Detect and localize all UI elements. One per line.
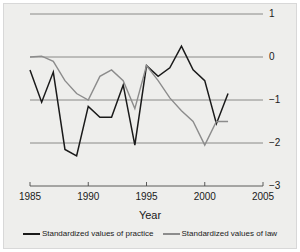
x-tick-label: 2000 — [185, 191, 225, 202]
x-tick-label: 1995 — [127, 191, 167, 202]
x-tick-label: 2005 — [243, 191, 283, 202]
legend-swatch-law-icon — [163, 233, 180, 235]
legend-item-practice: Standardized values of practice — [23, 229, 154, 238]
x-axis-title: Year — [0, 209, 300, 221]
x-tick-label: 1990 — [68, 191, 108, 202]
gridlines — [30, 14, 263, 143]
chart-figure: 19851990199520002005 10−1−2−3 Year Stand… — [0, 0, 300, 252]
x-axis — [30, 182, 263, 186]
legend-item-law: Standardized values of law — [163, 229, 278, 238]
y-tick-label: 0 — [269, 51, 289, 62]
legend-label-law: Standardized values of law — [182, 229, 278, 238]
series-line-practice — [30, 46, 228, 156]
y-tick-label: −3 — [269, 180, 289, 191]
x-tick-label: 1985 — [10, 191, 50, 202]
series-lines — [30, 46, 228, 156]
legend-label-practice: Standardized values of practice — [42, 229, 154, 238]
y-tick-label: −2 — [269, 137, 289, 148]
y-tick-label: −1 — [269, 94, 289, 105]
chart-legend: Standardized values of practice Standard… — [0, 229, 300, 238]
legend-swatch-practice-icon — [23, 233, 40, 235]
series-line-law — [30, 56, 228, 145]
y-tick-label: 1 — [269, 8, 289, 19]
